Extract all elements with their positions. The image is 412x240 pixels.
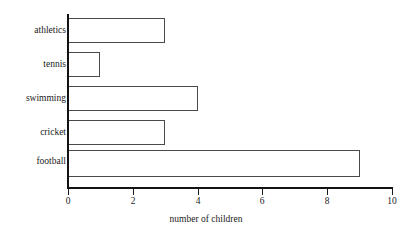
bar-tennis [68,52,100,77]
x-tick-label-2: 2 [121,196,145,207]
x-tick-4 [198,189,199,195]
x-axis-title: number of children [0,213,412,225]
x-tick-2 [133,189,134,195]
x-tick-label-0: 0 [56,196,80,207]
category-label-swimming: swimming [26,92,66,104]
bar-cricket [68,120,165,145]
bar-athletics [68,18,165,43]
x-tick-0 [68,189,69,195]
category-label-athletics: athletics [34,24,66,36]
x-tick-label-8: 8 [315,196,339,207]
bar-swimming [68,86,198,111]
x-tick-10 [392,189,393,195]
y-axis-line [67,14,69,189]
bar-football [68,150,360,177]
x-axis-line [67,187,393,189]
x-tick-8 [327,189,328,195]
bar-chart: athletics tennis swimming cricket footba… [0,0,412,240]
category-label-cricket: cricket [40,126,66,138]
x-tick-6 [262,189,263,195]
category-label-football: football [36,155,66,167]
x-tick-label-10: 10 [380,196,404,207]
x-tick-label-6: 6 [250,196,274,207]
category-label-tennis: tennis [43,58,66,70]
x-tick-label-4: 4 [186,196,210,207]
